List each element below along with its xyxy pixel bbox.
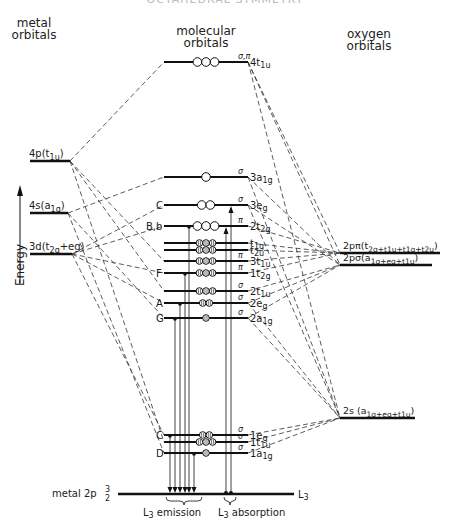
absorption-label: L3 absorption (218, 507, 285, 520)
correlation-line (70, 62, 164, 161)
symmetry-label: π (238, 263, 243, 272)
filled-orbital-icon (203, 270, 210, 277)
transition-label-B,b: B,b (146, 221, 162, 232)
symmetry-label: σ (238, 293, 244, 302)
transition-label-G: G (156, 313, 164, 324)
filled-orbital-icon (206, 432, 213, 439)
arrowhead-icon (17, 185, 23, 196)
correlation-line (72, 254, 164, 303)
filled-orbital-icon (203, 288, 210, 295)
filled-orbital-icon (209, 240, 216, 247)
transition-label-C: C (156, 430, 163, 441)
correlation-line (248, 205, 340, 418)
symmetry-label: σ (238, 167, 244, 176)
correlation-lines (68, 62, 340, 453)
empty-orbital-icon (210, 222, 219, 231)
absorption-brace-icon (224, 497, 236, 505)
filled-orbital-icon (209, 247, 216, 254)
correlation-line (72, 254, 164, 435)
filled-orbital-icon (199, 432, 206, 439)
transition-label-A: A (156, 298, 163, 309)
mo-label-2eg: 2eg (250, 298, 268, 311)
filled-orbital-icon (196, 439, 203, 446)
filled-orbital-icon (203, 258, 210, 265)
empty-orbital-icon (202, 222, 211, 231)
fraction-numerator: 3 (105, 485, 110, 494)
empty-orbital-icon (206, 201, 215, 210)
correlation-line (248, 62, 340, 418)
filled-orbital-icon (196, 240, 203, 247)
symmetry-label: π (238, 251, 243, 260)
correlation-line (72, 254, 164, 273)
mo-label-1t2g: 1t2g (250, 268, 270, 281)
mo-label-4t1u: 4t1u (250, 57, 270, 70)
correlation-line (70, 161, 164, 442)
filled-orbital-icon (203, 439, 210, 446)
filled-orbital-icon (199, 300, 206, 307)
mo-diagram: 4p(t1u)4s(a1g)3d(t2g+eg)2pπ(t2g+t1u+t1g+… (0, 0, 452, 527)
transition-label-C: C (156, 200, 163, 211)
filled-orbital-icon (196, 247, 203, 254)
level-labels: 4p(t1u)4s(a1g)3d(t2g+eg)2pπ(t2g+t1u+t1g+… (29, 52, 438, 520)
energy-axis: Energy (13, 185, 27, 286)
filled-orbital-icon (203, 247, 210, 254)
energy-axis-label: Energy (13, 244, 27, 286)
emission-label: L3 emission (143, 507, 201, 520)
fraction-denominator: 2 (105, 494, 110, 503)
filled-orbital-icon (206, 300, 213, 307)
mo-label-3eg: 3eg (250, 200, 268, 213)
empty-orbital-icon (202, 58, 211, 67)
transition-label-D: D (156, 448, 164, 459)
emission-brace-icon (166, 497, 202, 505)
correlation-line (68, 177, 164, 213)
filled-orbital-icon (209, 439, 216, 446)
symmetry-label: π (238, 216, 243, 225)
symmetry-label: σ (238, 443, 244, 452)
correlation-line (248, 62, 340, 265)
filled-orbital-icon (203, 240, 210, 247)
energy-levels (30, 58, 440, 494)
symmetry-label: σ (238, 281, 244, 290)
mo-label-2t2g: 2t2g (250, 221, 270, 234)
filled-orbital-icon (209, 288, 216, 295)
symmetry-label: σ,π (238, 52, 251, 61)
mo-label-3a1g: 3a1g (250, 172, 273, 185)
filled-orbital-icon (196, 288, 203, 295)
filled-orbital-icon (196, 258, 203, 265)
symmetry-label: σ (238, 308, 244, 317)
symmetry-label: σ (238, 432, 244, 441)
symmetry-label: σ (238, 195, 244, 204)
empty-orbital-icon (210, 58, 219, 67)
L3-label: L3 (298, 489, 309, 502)
empty-orbital-icon (193, 222, 202, 231)
filled-orbital-icon (209, 270, 216, 277)
core-level-label: metal 2p (52, 488, 97, 499)
filled-orbital-icon (203, 450, 210, 457)
empty-orbital-icon (193, 58, 202, 67)
filled-orbital-icon (196, 270, 203, 277)
correlation-line (248, 318, 340, 418)
empty-orbital-icon (202, 173, 211, 182)
filled-orbital-icon (209, 258, 216, 265)
filled-orbital-icon (203, 315, 210, 322)
empty-orbital-icon (197, 201, 206, 210)
transition-label-F: F (156, 268, 162, 279)
